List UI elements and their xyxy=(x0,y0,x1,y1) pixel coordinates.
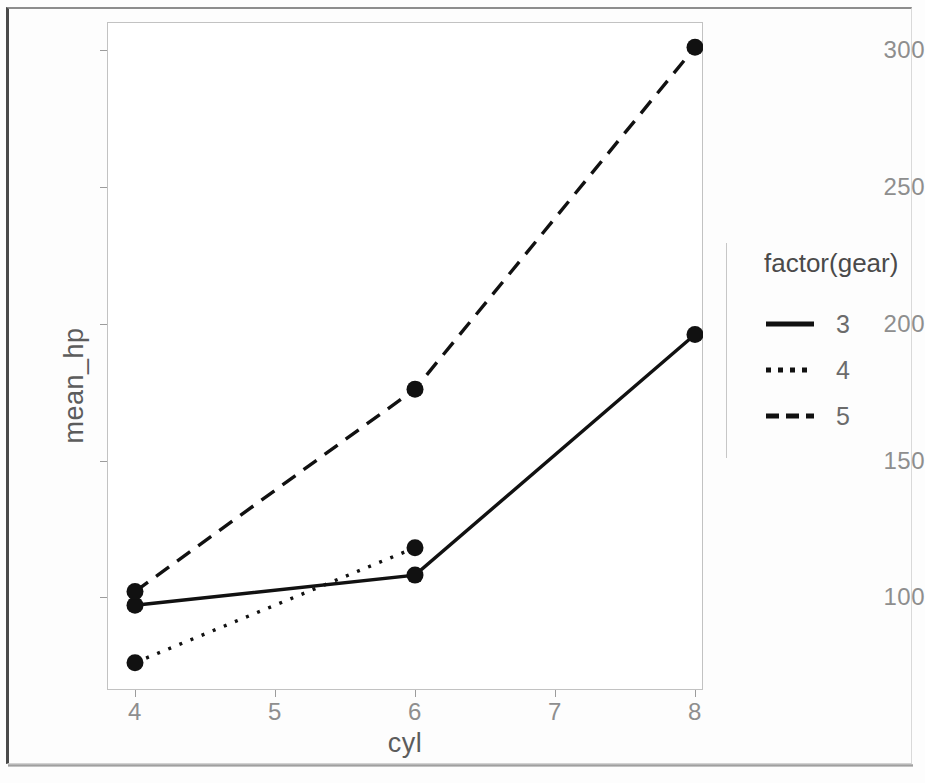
legend-divider xyxy=(726,243,727,458)
x-tick-mark-5 xyxy=(275,690,276,697)
x-tick-mark-7 xyxy=(555,690,556,697)
legend-item-3[interactable]: 3 xyxy=(764,301,912,347)
series-line-3 xyxy=(135,334,695,605)
plot-series-layer xyxy=(107,22,703,690)
x-axis-title: cyl xyxy=(107,728,703,759)
x-tick-label-4: 4 xyxy=(128,698,142,726)
series-line-4 xyxy=(135,548,415,663)
data-point-3-8[interactable] xyxy=(687,326,704,343)
x-tick-label-6: 6 xyxy=(408,698,422,726)
x-tick-label-7: 7 xyxy=(548,698,562,726)
line-chart: 300 250 200 150 100 4 5 6 7 8 mean_hp cy… xyxy=(0,0,925,783)
y-tick-mark-200 xyxy=(100,324,107,325)
x-tick-mark-8 xyxy=(695,690,696,697)
data-point-3-6[interactable] xyxy=(407,567,424,584)
legend-key-solid-icon xyxy=(764,313,816,335)
y-tick-label-150: 150 xyxy=(835,447,925,475)
x-tick-label-5: 5 xyxy=(268,698,282,726)
y-axis-title: mean_hp xyxy=(59,286,90,486)
legend-label-3: 3 xyxy=(836,310,850,339)
series-line-5 xyxy=(135,47,695,591)
data-point-5-4[interactable] xyxy=(127,583,144,600)
x-tick-label-8: 8 xyxy=(688,698,702,726)
chart-page: 300 250 200 150 100 4 5 6 7 8 mean_hp cy… xyxy=(0,0,925,783)
y-tick-label-100: 100 xyxy=(835,583,925,611)
legend-item-5[interactable]: 5 xyxy=(764,393,912,439)
data-point-4-4[interactable] xyxy=(127,654,144,671)
y-tick-label-300: 300 xyxy=(835,36,925,64)
data-point-5-8[interactable] xyxy=(687,39,704,56)
x-tick-mark-4 xyxy=(135,690,136,697)
legend-item-4[interactable]: 4 xyxy=(764,347,912,393)
data-point-5-6[interactable] xyxy=(407,381,424,398)
x-tick-mark-6 xyxy=(415,690,416,697)
y-tick-label-250: 250 xyxy=(835,173,925,201)
legend-key-dotted-icon xyxy=(764,359,816,381)
legend: factor(gear) 3 4 5 xyxy=(742,248,912,439)
legend-label-5: 5 xyxy=(836,402,850,431)
legend-label-4: 4 xyxy=(836,356,850,385)
y-tick-mark-300 xyxy=(100,50,107,51)
y-tick-mark-150 xyxy=(100,461,107,462)
legend-title: factor(gear) xyxy=(764,248,912,279)
data-point-4-6[interactable] xyxy=(407,539,424,556)
y-tick-mark-250 xyxy=(100,187,107,188)
legend-key-dashed-icon xyxy=(764,405,816,427)
y-tick-mark-100 xyxy=(100,597,107,598)
